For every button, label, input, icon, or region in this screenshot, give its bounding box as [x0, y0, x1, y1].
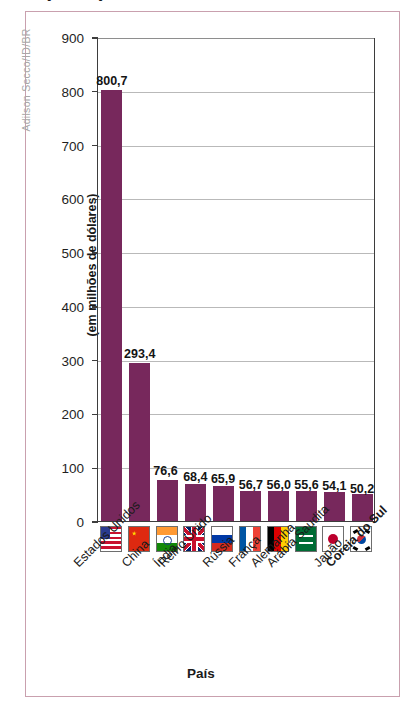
gridline [98, 253, 374, 254]
y-axis-tick [92, 37, 98, 38]
chart-figure: (2021) Adilson Secco/ID/BR (em milhões d… [0, 0, 402, 705]
y-axis-tick [92, 414, 98, 415]
y-axis-tick-label: 500 [40, 246, 84, 261]
gridline [98, 199, 374, 200]
bar [157, 480, 178, 521]
bar-value-label: 800,7 [82, 74, 142, 88]
y-axis-tick [92, 145, 98, 146]
y-axis-tick-label: 400 [40, 299, 84, 314]
y-axis-tick [92, 306, 98, 307]
bar [240, 491, 261, 521]
chart-title: (2021) [44, 0, 384, 2]
y-axis-tick [92, 360, 98, 361]
x-axis-title: País [0, 666, 402, 681]
plot-area: 0100200300400500600700800900800,7293,476… [97, 38, 375, 522]
bar [268, 491, 289, 521]
y-axis-tick-label: 900 [40, 31, 84, 46]
y-axis-tick-label: 700 [40, 138, 84, 153]
bar-value-label: 293,4 [110, 347, 170, 361]
y-axis-tick-label: 300 [40, 353, 84, 368]
y-axis-tick-label: 600 [40, 192, 84, 207]
gridline [98, 92, 374, 93]
y-axis-tick-label: 100 [40, 461, 84, 476]
y-axis-tick [92, 521, 98, 522]
y-axis-tick-label: 0 [40, 515, 84, 530]
y-axis-tick-label: 200 [40, 407, 84, 422]
bar [101, 90, 122, 521]
image-credit: Adilson Secco/ID/BR [20, 0, 32, 160]
gridline [98, 307, 374, 308]
gridline [98, 38, 374, 39]
y-axis-tick [92, 468, 98, 469]
y-axis-tick-label: 800 [40, 84, 84, 99]
y-axis-tick [92, 199, 98, 200]
gridline [98, 146, 374, 147]
y-axis-tick [92, 252, 98, 253]
bar-value-label: 50,2 [332, 482, 392, 496]
y-axis-tick [92, 91, 98, 92]
